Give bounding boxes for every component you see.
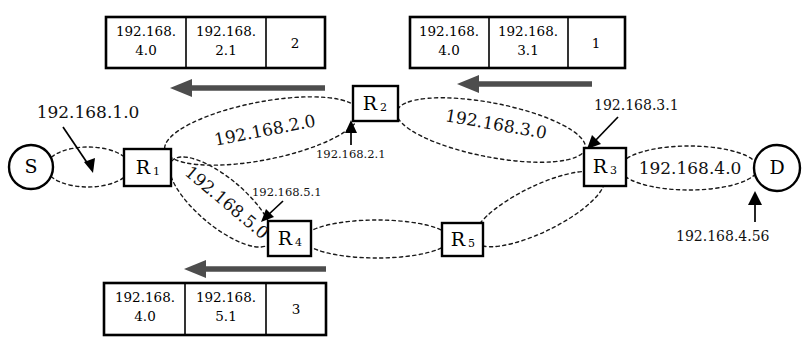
table-bottom-left: 192.168. 4.0 192.168. 5.1 3 <box>104 283 326 335</box>
callout-arrow-r3-iface <box>587 117 618 149</box>
interface-label-192-168-5-1: 192.168.5.1 <box>252 185 322 199</box>
node-r2-label: R <box>363 92 378 114</box>
callout-arrow-r4-iface <box>261 201 283 222</box>
interface-label-192-168-3-1: 192.168.3.1 <box>594 97 679 113</box>
table-pointer-arrow-top-left <box>170 79 325 97</box>
table-pointer-arrow-top-right <box>457 75 592 93</box>
table-bottom-left-nexthop-line2: 5.1 <box>215 308 236 324</box>
callout-arrow-net-1-0 <box>63 127 95 173</box>
node-r2[interactable]: R 2 <box>353 86 398 121</box>
node-r1-label: R <box>136 156 151 178</box>
node-r3[interactable]: R 3 <box>584 148 626 186</box>
table-bottom-left-destination-line1: 192.168. <box>115 289 175 305</box>
node-r1-sub: 1 <box>153 165 160 178</box>
table-top-right-destination-line2: 4.0 <box>438 42 459 58</box>
table-top-right-interface: 1 <box>592 35 601 51</box>
table-top-left-destination-line2: 4.0 <box>135 42 156 58</box>
network-label-192-168-1-0: 192.168.1.0 <box>37 102 140 122</box>
table-top-right-destination-line1: 192.168. <box>419 23 479 39</box>
table-top-right-nexthop-line1: 192.168. <box>498 23 558 39</box>
node-r4-sub: 4 <box>295 236 302 249</box>
table-top-left-interface: 2 <box>291 35 300 51</box>
network-label-192-168-2-0: 192.168.2.0 <box>213 110 318 149</box>
table-pointer-arrow-bottom-left <box>184 260 326 278</box>
table-top-left-nexthop-line2: 2.1 <box>215 42 236 58</box>
node-d[interactable]: D <box>754 145 800 191</box>
node-r2-sub: 2 <box>380 101 387 114</box>
node-r5[interactable]: R 5 <box>442 223 483 256</box>
link-s-r1-ellipse <box>46 147 130 187</box>
node-s-label: S <box>24 155 37 177</box>
node-r5-sub: 5 <box>468 237 475 250</box>
table-top-right: 192.168. 4.0 192.168. 3.1 1 <box>410 17 625 68</box>
table-top-left-destination-line1: 192.168. <box>116 23 176 39</box>
network-diagram-canvas: 192.168. 4.0 192.168. 2.1 2 192.168. 4.0… <box>0 0 811 355</box>
table-bottom-left-destination-line2: 4.0 <box>134 308 155 324</box>
node-r4-label: R <box>278 227 293 249</box>
link-r4-r5-ellipse <box>304 220 450 258</box>
node-r3-label: R <box>593 155 608 177</box>
interface-label-192-168-4-56: 192.168.4.56 <box>676 228 770 244</box>
node-r3-sub: 3 <box>610 164 617 177</box>
node-s[interactable]: S <box>9 145 53 189</box>
node-r5-label: R <box>451 228 466 250</box>
table-bottom-left-interface: 3 <box>292 301 301 317</box>
table-top-left-nexthop-line1: 192.168. <box>196 23 256 39</box>
table-bottom-left-nexthop-line1: 192.168. <box>196 289 256 305</box>
node-r1[interactable]: R 1 <box>124 149 171 186</box>
node-r4[interactable]: R 4 <box>268 221 311 256</box>
node-d-label: D <box>769 156 784 178</box>
callout-arrow-d-iface <box>748 191 762 222</box>
network-label-192-168-4-0: 192.168.4.0 <box>639 158 742 178</box>
network-label-192-168-3-0: 192.168.3.0 <box>444 105 549 143</box>
table-top-right-nexthop-line2: 3.1 <box>517 42 538 58</box>
callout-arrow-r2-iface <box>345 120 357 145</box>
diagram-svg: 192.168. 4.0 192.168. 2.1 2 192.168. 4.0… <box>0 0 811 355</box>
network-label-192-168-5-0: 192.168.5.0 <box>181 162 273 243</box>
table-top-left: 192.168. 4.0 192.168. 2.1 2 <box>106 17 325 68</box>
interface-label-192-168-2-1: 192.168.2.1 <box>316 147 386 161</box>
